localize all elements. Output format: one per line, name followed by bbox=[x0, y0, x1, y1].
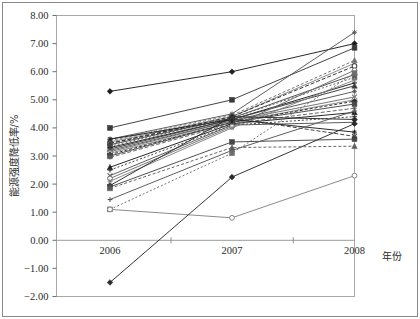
data-point-marker bbox=[352, 45, 357, 50]
y-axis-title: 能源强度降低率/% bbox=[8, 115, 20, 198]
y-axis-title-label: 能源强度降低率/% bbox=[8, 115, 20, 198]
y-tick-label: 2.00 bbox=[30, 179, 48, 190]
data-point-marker bbox=[352, 102, 357, 107]
y-tick-label: 7.00 bbox=[30, 38, 48, 49]
y-tick-label: 1.00 bbox=[30, 207, 48, 218]
data-point-marker bbox=[352, 30, 357, 35]
y-tick-label: 5.00 bbox=[30, 94, 48, 105]
data-point-marker bbox=[230, 97, 235, 102]
data-point-marker bbox=[352, 130, 357, 135]
data-point-marker bbox=[108, 126, 113, 131]
y-tick-label: 8.00 bbox=[30, 10, 48, 21]
y-tick-label: −1.00 bbox=[24, 263, 48, 274]
chart-figure: 8.007.006.005.004.003.002.001.000.00−1.0… bbox=[0, 0, 420, 319]
data-point-marker bbox=[352, 89, 357, 94]
x-tick-label: 2007 bbox=[222, 245, 243, 256]
y-tick-label: −2.00 bbox=[24, 291, 48, 302]
x-axis-title-label: 年份 bbox=[382, 250, 402, 262]
data-point-marker bbox=[230, 151, 235, 156]
data-point-marker bbox=[352, 71, 357, 76]
data-point-marker bbox=[230, 215, 235, 220]
data-point-marker bbox=[352, 173, 357, 178]
data-point-marker bbox=[352, 78, 357, 83]
y-tick-label: 0.00 bbox=[30, 235, 48, 246]
y-tick-label: 3.00 bbox=[30, 151, 48, 162]
x-tick-label: 2006 bbox=[100, 245, 121, 256]
chart-canvas: 8.007.006.005.004.003.002.001.000.00−1.0… bbox=[0, 0, 420, 319]
x-tick-label: 2008 bbox=[344, 245, 365, 256]
data-point-marker bbox=[230, 126, 235, 131]
y-tick-label: 4.00 bbox=[30, 122, 48, 133]
data-point-marker bbox=[108, 207, 113, 212]
data-point-marker bbox=[108, 137, 113, 142]
y-tick-label: 6.00 bbox=[30, 66, 48, 77]
data-point-marker bbox=[108, 155, 113, 160]
data-point-marker bbox=[230, 140, 235, 145]
